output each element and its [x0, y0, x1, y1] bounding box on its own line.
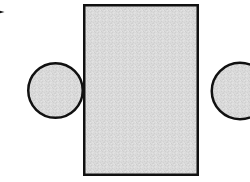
shape-diagram	[0, 0, 250, 182]
left-circle[interactable]	[28, 63, 83, 118]
center-rectangle[interactable]	[84, 5, 198, 175]
figure-canvas	[0, 0, 250, 182]
